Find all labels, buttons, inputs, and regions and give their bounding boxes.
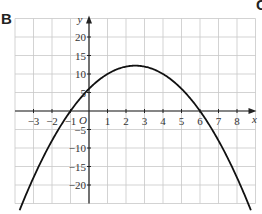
svg-text:15: 15 [75,50,87,62]
svg-text:−2: −2 [46,115,58,127]
svg-text:6: 6 [197,115,203,127]
svg-text:2: 2 [123,115,129,127]
svg-text:10: 10 [75,68,87,80]
svg-text:x: x [251,113,257,125]
svg-text:7: 7 [216,115,222,127]
svg-text:4: 4 [160,115,166,127]
svg-text:8: 8 [234,115,240,127]
svg-text:1: 1 [105,115,111,127]
tick-labels: −3−2−1123456782015105−5−10−15−20xyO [28,13,257,192]
parabola-chart: −3−2−1123456782015105−5−10−15−20xyO [0,0,262,214]
svg-text:−10: −10 [69,142,87,154]
axes [15,16,257,204]
svg-text:O: O [79,114,87,126]
svg-text:20: 20 [75,31,87,43]
svg-text:−15: −15 [69,161,87,173]
parabola-curve [20,66,251,211]
svg-text:3: 3 [142,115,148,127]
svg-text:5: 5 [179,115,185,127]
svg-text:y: y [77,13,83,25]
svg-text:−3: −3 [28,115,40,127]
svg-text:−20: −20 [69,179,87,191]
